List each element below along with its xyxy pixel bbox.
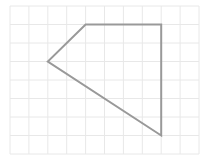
diagram-canvas [0,0,209,164]
grid-lines [10,6,199,154]
